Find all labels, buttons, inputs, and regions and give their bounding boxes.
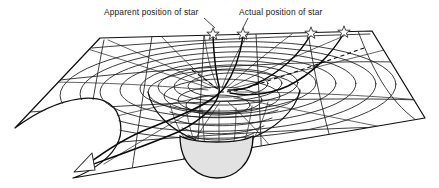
observer-direction-arrow	[74, 153, 95, 172]
spacetime-curvature-figure: Apparent position of star Actual positio…	[0, 0, 439, 188]
leader-line-actual	[243, 18, 248, 28]
star-background-right-inner	[305, 27, 317, 39]
leader-lines	[204, 18, 248, 28]
leader-line-apparent	[204, 18, 215, 28]
diagram-canvas: Apparent position of star Actual positio…	[0, 0, 439, 188]
massive-body-sphere	[180, 136, 253, 178]
label-apparent-position: Apparent position of star	[104, 7, 199, 17]
label-actual-position: Actual position of star	[239, 7, 323, 17]
